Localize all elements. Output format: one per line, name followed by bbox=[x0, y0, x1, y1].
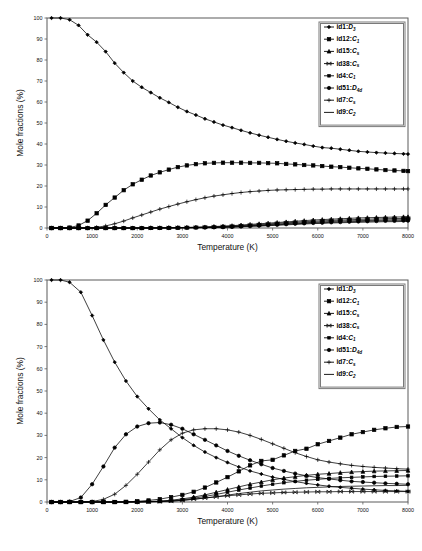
x-tick-label: 4000 bbox=[222, 507, 234, 513]
x-axis-title: Temperature (K) bbox=[197, 242, 258, 252]
y-tick-label: 30 bbox=[37, 162, 43, 168]
y-tick-label: 70 bbox=[37, 344, 43, 350]
x-tick-label: 8000 bbox=[402, 233, 414, 239]
x-tick-label: 1000 bbox=[86, 233, 98, 239]
x-tick-label: 2000 bbox=[131, 507, 143, 513]
y-tick-label: 100 bbox=[34, 277, 43, 283]
y-tick-label: 30 bbox=[37, 432, 43, 438]
chart-svg-lower: 0100020003000400050006000700080000102030… bbox=[0, 262, 422, 551]
x-tick-label: 1000 bbox=[86, 507, 98, 513]
x-tick-label: 5000 bbox=[267, 507, 279, 513]
figure-container: 0100020003000400050006000700080000102030… bbox=[0, 0, 422, 551]
y-tick-label: 50 bbox=[37, 120, 43, 126]
y-tick-label: 70 bbox=[37, 78, 43, 84]
x-tick-label: 4000 bbox=[222, 233, 234, 239]
x-tick-label: 7000 bbox=[357, 233, 369, 239]
y-axis-title: Mole fractions (%) bbox=[15, 357, 25, 425]
y-tick-label: 60 bbox=[37, 366, 43, 372]
y-tick-label: 0 bbox=[40, 499, 43, 505]
y-tick-label: 60 bbox=[37, 99, 43, 105]
chart-svg-upper: 0100020003000400050006000700080000102030… bbox=[0, 0, 422, 262]
chart-legend: id1:D3id12:C1id15:Csid38:Csid4:C1id51:D4… bbox=[319, 22, 405, 127]
chart-legend: id1:D3id12:C1id15:Csid38:Csid4:C1id51:D4… bbox=[319, 284, 405, 389]
x-tick-label: 3000 bbox=[176, 507, 188, 513]
x-tick-label: 6000 bbox=[312, 233, 324, 239]
y-axis-title: Mole fractions (%) bbox=[15, 89, 25, 157]
y-tick-label: 20 bbox=[37, 183, 43, 189]
y-tick-label: 50 bbox=[37, 388, 43, 394]
x-tick-label: 6000 bbox=[312, 507, 324, 513]
y-tick-label: 40 bbox=[37, 410, 43, 416]
series-id7 bbox=[49, 187, 410, 230]
x-tick-label: 0 bbox=[46, 233, 49, 239]
y-tick-label: 100 bbox=[34, 15, 43, 21]
x-axis-title: Temperature (K) bbox=[197, 516, 258, 526]
y-tick-label: 90 bbox=[37, 299, 43, 305]
chart-panel-lower: 0100020003000400050006000700080000102030… bbox=[0, 262, 422, 551]
y-tick-label: 90 bbox=[37, 36, 43, 42]
y-tick-label: 10 bbox=[37, 477, 43, 483]
chart-panel-upper: 0100020003000400050006000700080000102030… bbox=[0, 0, 422, 262]
x-tick-label: 2000 bbox=[131, 233, 143, 239]
x-tick-label: 3000 bbox=[176, 233, 188, 239]
y-tick-label: 80 bbox=[37, 321, 43, 327]
x-tick-label: 0 bbox=[46, 507, 49, 513]
x-tick-label: 7000 bbox=[357, 507, 369, 513]
y-tick-label: 80 bbox=[37, 57, 43, 63]
y-tick-label: 40 bbox=[37, 141, 43, 147]
x-tick-label: 8000 bbox=[402, 507, 414, 513]
x-tick-label: 5000 bbox=[267, 233, 279, 239]
y-tick-label: 20 bbox=[37, 455, 43, 461]
y-tick-label: 0 bbox=[40, 225, 43, 231]
y-tick-label: 10 bbox=[37, 204, 43, 210]
